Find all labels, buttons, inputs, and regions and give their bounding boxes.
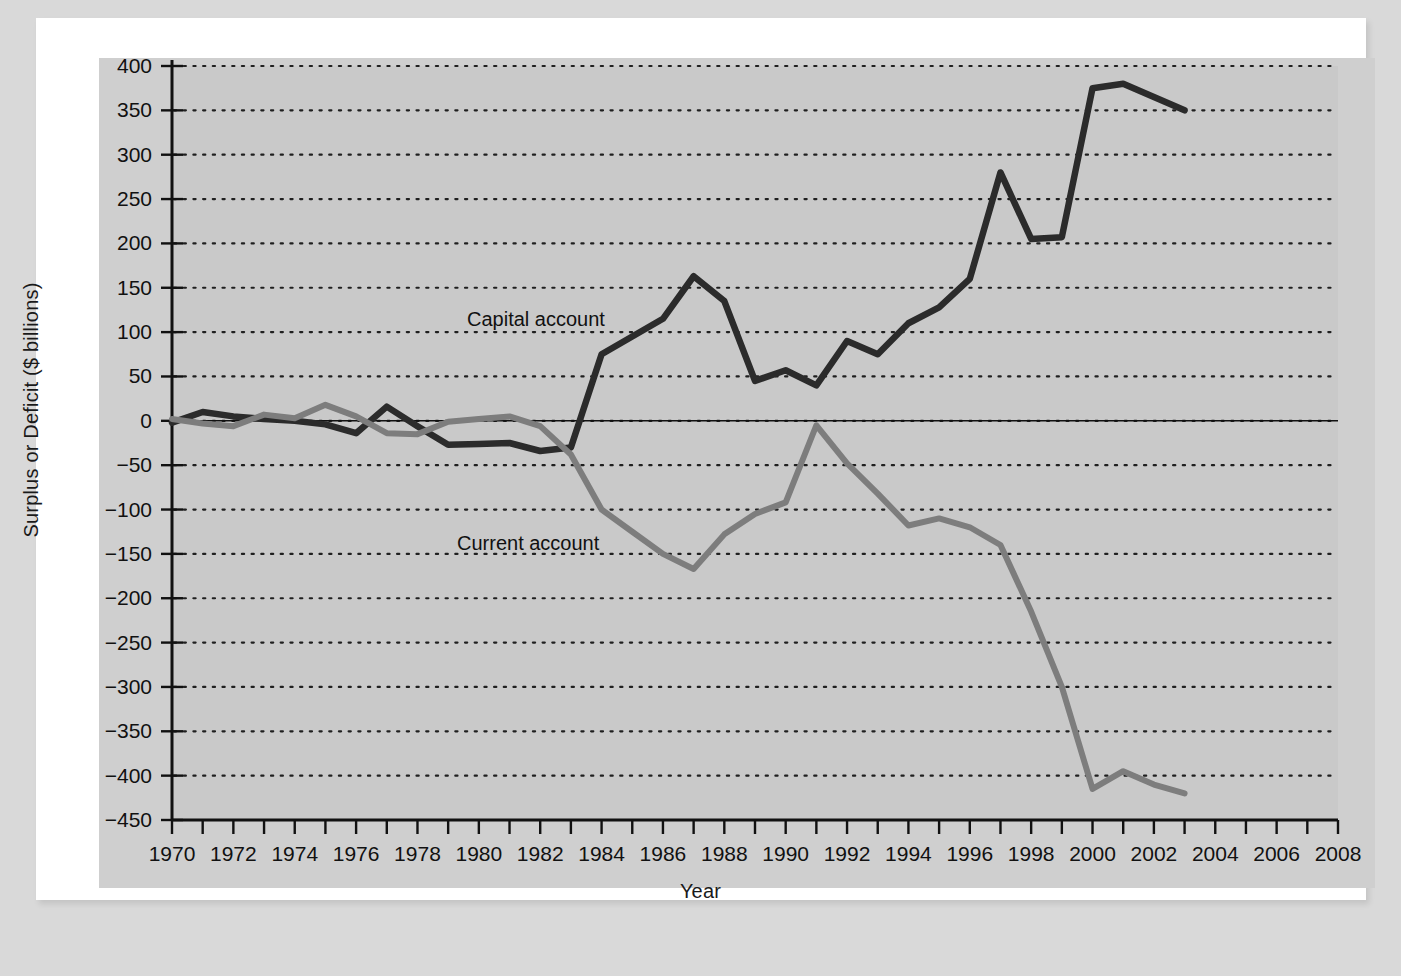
y-tick-label: 100 [117, 320, 152, 344]
y-tick-label: −400 [105, 764, 152, 788]
series-label-capital-account: Capital account [467, 308, 605, 331]
x-tick-label: 1986 [640, 842, 687, 866]
x-tick-label: 1998 [1008, 842, 1055, 866]
x-tick-label: 2004 [1192, 842, 1239, 866]
page-background: Surplus or Deficit ($ billions) Year Cap… [0, 0, 1401, 976]
y-tick-label: −50 [116, 453, 152, 477]
x-tick-label: 1976 [333, 842, 380, 866]
y-tick-label: −100 [105, 498, 152, 522]
y-tick-label: 200 [117, 231, 152, 255]
y-tick-label: −350 [105, 719, 152, 743]
x-tick-label: 1970 [149, 842, 196, 866]
chart-surface: Surplus or Deficit ($ billions) Year Cap… [0, 0, 1401, 976]
y-tick-label: 0 [140, 409, 152, 433]
y-tick-label: 400 [117, 54, 152, 78]
y-tick-label: 150 [117, 276, 152, 300]
x-tick-label: 1990 [762, 842, 809, 866]
y-tick-label: 50 [129, 364, 152, 388]
x-tick-label: 1982 [517, 842, 564, 866]
x-tick-label: 1978 [394, 842, 441, 866]
x-tick-label: 2008 [1315, 842, 1362, 866]
x-tick-label: 2000 [1069, 842, 1116, 866]
series-label-current-account: Current account [457, 532, 599, 555]
x-tick-label: 2002 [1131, 842, 1178, 866]
x-tick-label: 1988 [701, 842, 748, 866]
x-tick-label: 2006 [1253, 842, 1300, 866]
y-tick-label: 300 [117, 143, 152, 167]
x-tick-label: 1974 [271, 842, 318, 866]
y-tick-label: 350 [117, 98, 152, 122]
x-tick-label: 1980 [455, 842, 502, 866]
x-tick-label: 1992 [824, 842, 871, 866]
line-chart-svg [0, 0, 1401, 976]
x-axis-title: Year [0, 880, 1401, 903]
x-tick-label: 1994 [885, 842, 932, 866]
y-axis-title: Surplus or Deficit ($ billions) [20, 260, 43, 560]
x-tick-label: 1984 [578, 842, 625, 866]
y-tick-label: 250 [117, 187, 152, 211]
y-tick-label: −450 [105, 808, 152, 832]
y-tick-label: −150 [105, 542, 152, 566]
x-tick-label: 1996 [946, 842, 993, 866]
y-tick-label: −250 [105, 631, 152, 655]
y-tick-label: −200 [105, 586, 152, 610]
x-tick-label: 1972 [210, 842, 257, 866]
y-tick-label: −300 [105, 675, 152, 699]
